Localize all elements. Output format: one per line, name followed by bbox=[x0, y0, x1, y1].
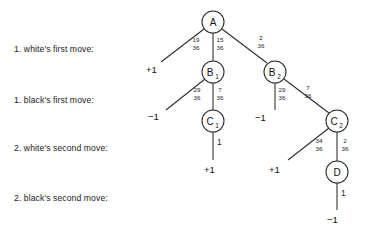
node-b1-label: B bbox=[207, 67, 214, 78]
node-b2-subscript: 2 bbox=[277, 73, 281, 80]
tree-edges bbox=[161, 29, 337, 210]
fraction-a-left-denominator: 36 bbox=[193, 44, 200, 51]
fraction-b1-left-denominator: 36 bbox=[194, 94, 201, 101]
fraction-b2-right-denominator: 36 bbox=[305, 92, 312, 99]
node-b1-subscript: 1 bbox=[215, 73, 219, 80]
fraction-c2-left-numerator: 34 bbox=[316, 137, 323, 144]
fraction-c2-right: 2 36 bbox=[342, 137, 349, 152]
node-b2: B 2 bbox=[264, 61, 286, 83]
payoff-b1-left: −1 bbox=[148, 111, 159, 122]
edge-c2-left-terminal bbox=[288, 128, 329, 160]
node-b2-label: B bbox=[269, 67, 276, 78]
fraction-b2-down: 29 36 bbox=[279, 86, 286, 101]
payoff-a-left: +1 bbox=[146, 64, 157, 75]
fraction-a-left: 19 36 bbox=[193, 36, 200, 51]
node-c1: C 1 bbox=[202, 110, 224, 132]
payoff-b2-down: −1 bbox=[255, 112, 266, 123]
fraction-b1-middle-denominator: 36 bbox=[217, 94, 224, 101]
fraction-a-middle: 15 36 bbox=[217, 36, 224, 51]
edge-label-c1-probability: 1 bbox=[217, 137, 222, 147]
node-c2-label: C bbox=[330, 116, 337, 127]
fraction-b2-right-numerator: 7 bbox=[306, 84, 310, 91]
fraction-c2-left: 34 36 bbox=[316, 137, 323, 152]
node-d: D bbox=[326, 161, 348, 183]
fraction-b1-left-numerator: 29 bbox=[194, 86, 201, 93]
fraction-a-middle-numerator: 15 bbox=[217, 36, 224, 43]
node-c2: C 2 bbox=[326, 110, 348, 132]
fraction-c2-right-denominator: 36 bbox=[342, 145, 349, 152]
fraction-a-middle-denominator: 36 bbox=[217, 44, 224, 51]
node-b1: B 1 bbox=[202, 61, 224, 83]
node-c1-subscript: 1 bbox=[215, 122, 219, 129]
edge-probabilities: 19 36 15 36 2 36 29 36 7 36 29 36 bbox=[193, 34, 349, 152]
payoff-c2-left: +1 bbox=[269, 164, 280, 175]
fraction-a-left-numerator: 19 bbox=[193, 36, 200, 43]
fraction-b1-middle: 7 36 bbox=[217, 86, 224, 101]
fraction-a-right-numerator: 2 bbox=[259, 34, 263, 41]
game-tree-graphic: A B 1 B 2 C 1 C 2 bbox=[0, 0, 372, 233]
fraction-b2-down-denominator: 36 bbox=[279, 94, 286, 101]
fraction-b1-left: 29 36 bbox=[194, 86, 201, 101]
edge-label-d-probability: 1 bbox=[341, 188, 346, 198]
payoff-c1: +1 bbox=[204, 164, 215, 175]
node-c1-label: C bbox=[206, 116, 213, 127]
node-d-label: D bbox=[333, 167, 340, 178]
payoff-d: −1 bbox=[327, 214, 338, 225]
node-a: A bbox=[202, 11, 224, 33]
node-c2-subscript: 2 bbox=[339, 122, 343, 129]
fraction-a-right-denominator: 36 bbox=[258, 42, 265, 49]
fraction-b2-right: 7 36 bbox=[305, 84, 312, 99]
node-a-label: A bbox=[210, 17, 217, 28]
fraction-c2-left-denominator: 36 bbox=[316, 145, 323, 152]
fraction-b2-down-numerator: 29 bbox=[279, 86, 286, 93]
diagram-canvas: 1. white's first move: 1. black's first … bbox=[0, 0, 372, 233]
fraction-c2-right-numerator: 2 bbox=[343, 137, 347, 144]
fraction-b1-middle-numerator: 7 bbox=[218, 86, 222, 93]
fraction-a-right: 2 36 bbox=[258, 34, 265, 49]
